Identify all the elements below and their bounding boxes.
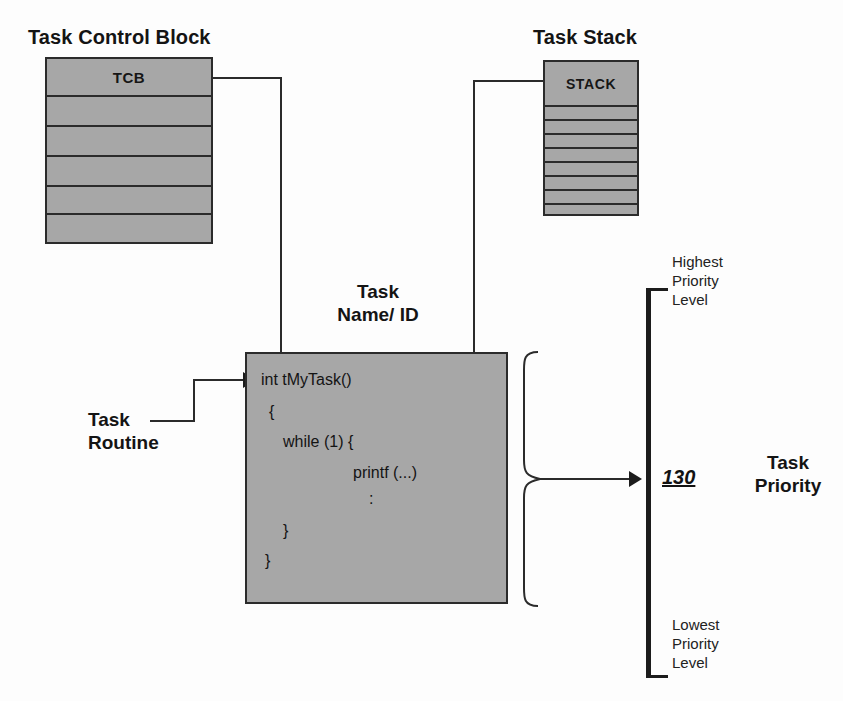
tcb-row (47, 157, 211, 187)
task-name-id-line2: Name/ ID (330, 304, 426, 327)
task-routine-line2: Routine (88, 431, 159, 454)
priority-tick-highest (646, 288, 668, 291)
stack-row (545, 163, 637, 177)
highest-priority-line3: Level (672, 290, 723, 309)
task-name-id-line1: Task (330, 281, 426, 304)
routine-connector-horizontal-low (150, 420, 195, 422)
task-routine-line1: Task (88, 408, 159, 431)
code-line-3: while (1) { (283, 433, 353, 451)
priority-value-label: 130 (662, 466, 695, 489)
stack-row-label: STACK (545, 62, 637, 107)
tcb-row-label: TCB (47, 59, 211, 97)
tcb-connector-horizontal (213, 77, 282, 79)
lowest-priority-line3: Level (672, 653, 720, 672)
tcb-row (47, 215, 211, 242)
task-name-id-title: Task Name/ ID (330, 281, 426, 327)
stack-heading: Task Stack (533, 26, 637, 49)
code-line-4: printf (...) (353, 464, 417, 482)
stack-row (545, 191, 637, 205)
task-routine-code-box: int tMyTask() { while (1) { printf (...)… (245, 352, 508, 604)
stack-row (545, 135, 637, 149)
tcb-row (47, 127, 211, 157)
tcb-connector-vertical (280, 77, 282, 354)
stack-row (545, 177, 637, 191)
highest-priority-line1: Highest (672, 252, 723, 271)
routine-connector-horizontal-high (193, 379, 247, 381)
code-line-1: int tMyTask() (261, 371, 352, 389)
task-control-block: TCB (45, 57, 213, 244)
routine-connector-vertical (193, 379, 195, 422)
tcb-row (47, 187, 211, 215)
stack-connector-horizontal (473, 80, 544, 82)
tcb-heading: Task Control Block (28, 26, 211, 49)
lowest-priority-line2: Priority (672, 634, 720, 653)
code-line-6: } (283, 522, 288, 540)
priority-scale-bar (646, 288, 651, 678)
stack-row (545, 205, 637, 218)
stack-row (545, 107, 637, 121)
priority-arrow-icon (629, 471, 642, 487)
task-priority-title: Task Priority (740, 452, 836, 498)
code-line-2: { (269, 403, 274, 421)
highest-priority-label: Highest Priority Level (672, 252, 723, 310)
task-priority-line2: Priority (740, 475, 836, 498)
lowest-priority-line1: Lowest (672, 615, 720, 634)
task-routine-label: Task Routine (88, 408, 159, 454)
task-priority-line1: Task (740, 452, 836, 475)
code-line-7: } (265, 552, 270, 570)
priority-tick-lowest (646, 675, 668, 678)
diagram-canvas: Task Control Block TCB Task Stack STACK … (0, 0, 843, 701)
lowest-priority-label: Lowest Priority Level (672, 615, 720, 673)
code-line-5: : (369, 490, 373, 508)
stack-row (545, 121, 637, 135)
task-stack-block: STACK (543, 60, 639, 216)
priority-connector-line (540, 478, 632, 480)
stack-row (545, 149, 637, 163)
highest-priority-line2: Priority (672, 271, 723, 290)
tcb-row (47, 97, 211, 127)
stack-connector-vertical (473, 80, 475, 354)
